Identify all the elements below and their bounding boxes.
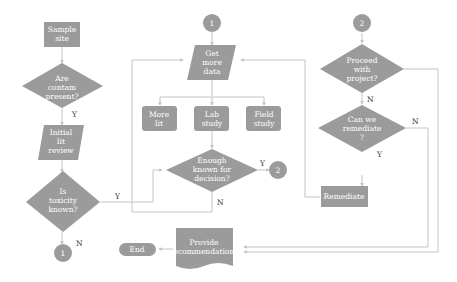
svg-text:Remediate: Remediate: [324, 192, 365, 201]
svg-text:Proceed: Proceed: [346, 56, 377, 65]
svg-text:2: 2: [276, 166, 281, 175]
svg-text:?: ?: [360, 133, 364, 142]
label-yes: Y: [71, 110, 78, 119]
svg-text:Provide: Provide: [189, 238, 219, 247]
label-yes: Y: [114, 192, 121, 201]
svg-text:data: data: [204, 67, 221, 76]
label-yes: Y: [376, 150, 383, 159]
connector-1-bottom[interactable]: 1: [54, 244, 72, 262]
svg-text:study: study: [202, 119, 223, 128]
svg-text:recommendations: recommendations: [170, 247, 238, 256]
svg-text:more: more: [202, 58, 222, 67]
label-no: N: [217, 198, 224, 207]
svg-text:Get: Get: [205, 49, 218, 58]
svg-text:with: with: [354, 65, 371, 74]
svg-text:toxicity: toxicity: [49, 196, 78, 205]
label-yes: Y: [259, 159, 266, 168]
svg-text:Field: Field: [254, 110, 273, 119]
decision-proceed-with-project[interactable]: Proceed with project?: [320, 44, 404, 93]
svg-text:Initial: Initial: [50, 128, 73, 137]
io-get-more-data[interactable]: Get more data: [187, 45, 236, 80]
connector-1-top[interactable]: 1: [203, 14, 221, 32]
flowchart: Sample site Are contam present? Y Initia…: [0, 0, 457, 282]
connector-2-top[interactable]: 2: [353, 14, 371, 32]
svg-text:Can we: Can we: [348, 115, 377, 124]
svg-text:review: review: [48, 146, 74, 155]
svg-text:Are: Are: [54, 74, 69, 83]
svg-text:1: 1: [61, 249, 66, 258]
decision-can-we-remediate[interactable]: Can we remediate ?: [318, 105, 406, 152]
io-initial-lit-review[interactable]: Initial lit review: [38, 125, 84, 160]
svg-text:lit: lit: [57, 137, 65, 146]
svg-text:site: site: [55, 34, 69, 43]
svg-text:project?: project?: [347, 74, 378, 83]
svg-text:2: 2: [360, 19, 365, 28]
svg-text:Is: Is: [60, 187, 67, 196]
svg-text:known?: known?: [48, 205, 77, 214]
svg-text:More: More: [149, 110, 170, 119]
label-no: N: [412, 117, 419, 126]
label-no: N: [76, 239, 83, 248]
svg-text:study: study: [254, 119, 275, 128]
terminal-end[interactable]: End: [119, 243, 156, 256]
document-provide-recommendations[interactable]: Provide recommendations: [170, 228, 238, 269]
label-no: N: [367, 95, 374, 104]
process-sample-site[interactable]: Sample site: [44, 22, 80, 47]
svg-text:known for: known for: [193, 165, 232, 174]
connector-2-mid[interactable]: 2: [269, 161, 287, 179]
svg-text:contam: contam: [48, 83, 76, 92]
svg-text:1: 1: [210, 19, 215, 28]
decision-are-contam-present[interactable]: Are contam present?: [22, 63, 103, 108]
svg-text:decision?: decision?: [194, 174, 229, 183]
process-lab-study[interactable]: Lab study: [194, 106, 229, 131]
process-more-lit[interactable]: More lit: [142, 106, 177, 131]
svg-text:Sample: Sample: [48, 25, 77, 34]
process-remediate[interactable]: Remediate: [321, 186, 368, 207]
svg-text:lit: lit: [155, 119, 163, 128]
svg-text:Enough: Enough: [197, 156, 226, 165]
svg-text:Lab: Lab: [205, 110, 219, 119]
svg-text:present?: present?: [46, 92, 79, 101]
decision-is-toxicity-known[interactable]: Is toxicity known?: [26, 171, 100, 232]
decision-enough-known[interactable]: Enough known for decision?: [166, 149, 258, 192]
process-field-study[interactable]: Field study: [246, 106, 281, 131]
svg-text:remediate: remediate: [343, 124, 382, 133]
svg-text:End: End: [129, 245, 144, 254]
